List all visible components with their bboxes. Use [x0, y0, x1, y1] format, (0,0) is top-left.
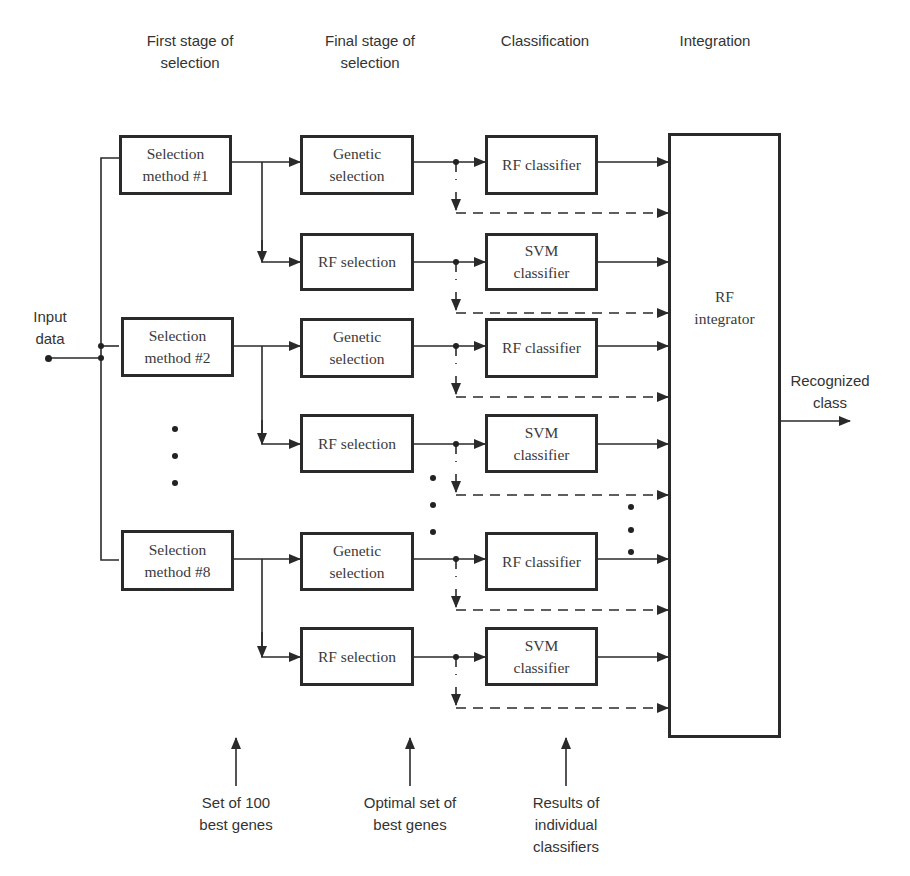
svm-classifier-box: SVM classifier [485, 627, 598, 686]
genetic-selection-box: Genetic selection [300, 532, 414, 591]
selection-method-8: Selection method #8 [121, 530, 234, 591]
ellipsis-dot [172, 426, 178, 432]
ellipsis-dot [628, 504, 634, 510]
ellipsis-dot [628, 527, 634, 533]
note-set-of-100-genes: Set of 100 best genes [186, 792, 286, 836]
junction-dot [453, 654, 459, 660]
note-optimal-set: Optimal set of best genes [350, 792, 470, 836]
rf-classifier-box: RF classifier [485, 532, 598, 591]
rf-integrator: RF integrator [668, 133, 781, 738]
rf-classifier-box: RF classifier [485, 318, 598, 378]
ellipsis-dot [172, 480, 178, 486]
input-data-label: Input data [20, 306, 80, 350]
ellipsis-dot [628, 549, 634, 555]
ellipsis-dot [430, 502, 436, 508]
rf-selection-box: RF selection [300, 233, 414, 291]
ellipsis-dot [430, 475, 436, 481]
header-integration: Integration [645, 30, 785, 52]
rf-selection-box: RF selection [300, 627, 414, 686]
junction-dot [453, 441, 459, 447]
selection-method-1: Selection method #1 [119, 135, 232, 195]
ellipsis-dot [430, 529, 436, 535]
junction-dot [453, 556, 459, 562]
svm-classifier-box: SVM classifier [485, 414, 598, 473]
bus-junction [98, 355, 104, 361]
genetic-selection-box: Genetic selection [300, 318, 414, 378]
header-final-stage: Final stage of selection [290, 30, 450, 74]
note-results-classifiers: Results of individual classifiers [521, 792, 611, 858]
bus-junction [98, 343, 104, 349]
header-classification: Classification [470, 30, 620, 52]
selection-method-2: Selection method #2 [121, 317, 234, 377]
ellipsis-dot [172, 453, 178, 459]
genetic-selection-box: Genetic selection [300, 135, 414, 195]
svm-classifier-box: SVM classifier [485, 233, 598, 291]
junction-dot [453, 259, 459, 265]
junction-dot [453, 343, 459, 349]
rf-selection-box: RF selection [300, 414, 414, 473]
recognized-class-label: Recognized class [780, 370, 880, 414]
junction-dot [453, 159, 459, 165]
rf-classifier-box: RF classifier [485, 135, 598, 195]
input-node [45, 355, 52, 362]
header-first-stage: First stage of selection [110, 30, 270, 74]
